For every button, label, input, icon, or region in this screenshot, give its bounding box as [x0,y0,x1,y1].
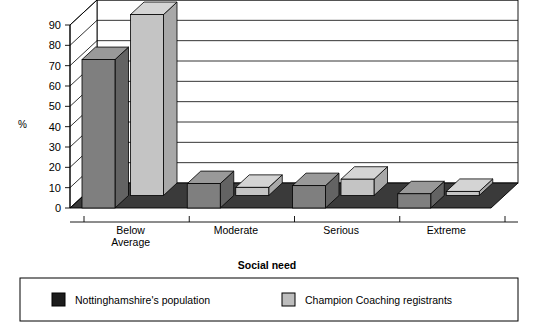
legend-label-1: Nottinghamshire's population [75,294,210,306]
bar-1-series-1 [187,171,234,208]
y-tick-label-20: 20 [49,161,61,173]
y-tick-label-0: 0 [55,202,61,214]
y-tick-label-80: 80 [49,39,61,51]
x-category-label-0: Below [116,224,145,236]
x-category-label-0: Average [111,236,150,248]
legend-label-2: Champion Coaching registrants [305,294,452,306]
social-need-bar-chart: 0102030405060708090 % BelowAverageModera… [0,0,534,333]
chart-container: 0102030405060708090 % BelowAverageModera… [0,0,534,333]
x-category-label-1: Moderate [214,224,259,236]
y-tick-label-50: 50 [49,100,61,112]
bar-0-series-2 [131,2,178,195]
y-axis-title: % [18,119,27,130]
x-category-label-2: Serious [323,224,359,236]
y-tick-label-90: 90 [49,19,61,31]
y-tick-label-10: 10 [49,182,61,194]
y-tick-label-70: 70 [49,60,61,72]
y-tick-label-30: 30 [49,141,61,153]
chart-legend: Nottinghamshire's populationChampion Coa… [20,278,518,321]
legend-swatch-1 [52,293,65,306]
y-tick-label-60: 60 [49,80,61,92]
x-category-label-3: Extreme [427,224,466,236]
bar-0-series-1 [82,47,129,208]
x-axis-title: Social need [238,259,296,271]
y-tick-label-40: 40 [49,121,61,133]
legend-swatch-2 [282,293,295,306]
